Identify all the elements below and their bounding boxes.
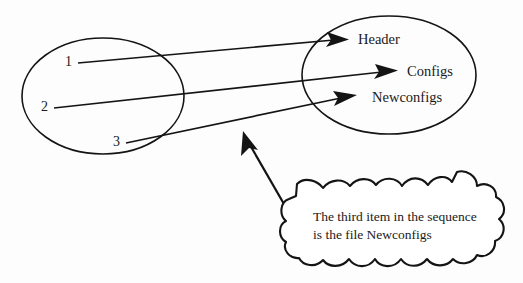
callout-pointer-arrowhead-icon [241,131,258,156]
sequence-item-3: 3 [113,134,120,151]
arrowhead-header-icon [326,32,349,47]
callout-text-line-2: is the file Newconfigs [313,226,432,244]
connector-3-to-newconfigs [126,98,341,143]
sequence-item-2: 2 [41,99,48,116]
callout-text-line-1: The third item in the sequence [313,208,477,226]
file-label-configs: Configs [407,63,453,80]
connector-1-to-header [78,40,334,63]
connector-2-to-configs [54,72,382,108]
arrowhead-configs-icon [374,64,398,79]
file-label-newconfigs: Newconfigs [372,89,442,106]
diagram-canvas: 1 2 3 Header Configs Newconfigs The thir… [0,0,523,283]
file-label-header: Header [358,31,400,48]
sequence-item-1: 1 [65,54,72,71]
